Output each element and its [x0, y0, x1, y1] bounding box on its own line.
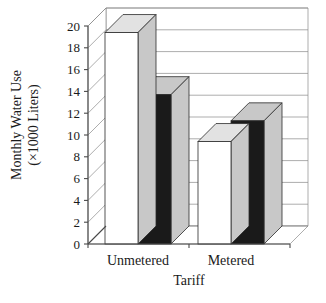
- y-tick-label: 12: [67, 106, 80, 121]
- bar-side-face: [264, 103, 282, 244]
- y-tick-label: 20: [67, 19, 80, 34]
- y-tick-label: 4: [74, 193, 81, 208]
- bar-unmetered-series-1: [105, 15, 156, 244]
- bar-side-face: [171, 77, 189, 244]
- bar-side-face: [231, 124, 249, 244]
- bar-chart: 02468101214161820UnmeteredMeteredTariff …: [0, 0, 326, 303]
- y-tick-label: 0: [74, 237, 81, 252]
- x-category-label: Unmetered: [107, 253, 169, 268]
- y-tick-label: 16: [67, 62, 81, 77]
- y-tick-label: 6: [74, 171, 81, 186]
- bar-front-face: [105, 33, 138, 244]
- y-axis-title-line2: (×1000 Liters): [25, 45, 42, 205]
- chart-canvas: 02468101214161820UnmeteredMeteredTariff: [0, 0, 326, 303]
- bar-front-face: [198, 142, 231, 244]
- bar-side-face: [138, 15, 156, 244]
- bar-metered-series-1: [198, 124, 249, 244]
- y-tick-label: 18: [67, 40, 80, 55]
- x-category-label: Metered: [208, 253, 255, 268]
- y-axis-title: Monthly Water Use (×1000 Liters): [8, 45, 48, 205]
- y-axis-title-line1: Monthly Water Use: [8, 45, 25, 205]
- x-axis-title: Tariff: [173, 273, 205, 288]
- y-tick-label: 10: [67, 128, 80, 143]
- y-tick-label: 2: [74, 215, 81, 230]
- y-tick-label: 8: [74, 149, 81, 164]
- y-tick-label: 14: [67, 84, 81, 99]
